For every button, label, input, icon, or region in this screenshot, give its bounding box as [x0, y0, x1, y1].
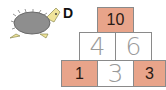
pyramid-middle-right-cell[interactable]: 6 [115, 32, 152, 61]
cell-value: 3 [145, 65, 154, 83]
pyramid-bottom-right-cell: 3 [133, 60, 166, 87]
pyramid-top-cell: 10 [97, 7, 134, 33]
cell-value: 3 [108, 59, 124, 88]
cell-value: 6 [126, 32, 142, 61]
hedgehog-icon [6, 4, 62, 40]
cell-value: 4 [90, 32, 106, 61]
pyramid-middle-left-cell[interactable]: 4 [79, 32, 116, 61]
exercise-label: D [63, 5, 73, 21]
cell-value: 1 [75, 65, 84, 83]
pyramid-bottom-middle-cell[interactable]: 3 [97, 60, 134, 87]
pyramid-bottom-left-cell: 1 [61, 60, 98, 87]
cell-value: 10 [107, 11, 125, 29]
